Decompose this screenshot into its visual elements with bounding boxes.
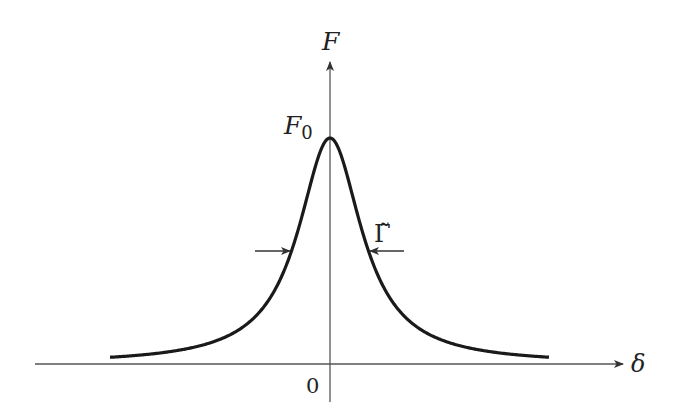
peak-label-main: F [283, 111, 303, 140]
peak-label: F0 [283, 111, 313, 143]
origin-label: 0 [306, 374, 319, 398]
x-axis-label: δ [631, 350, 645, 378]
width-label: Γ̃ [374, 220, 391, 248]
lorentzian-diagram: F δ F0 0 Γ̃ [0, 0, 677, 419]
peak-label-subscript: 0 [301, 122, 312, 143]
y-axis-label: F [321, 27, 341, 56]
